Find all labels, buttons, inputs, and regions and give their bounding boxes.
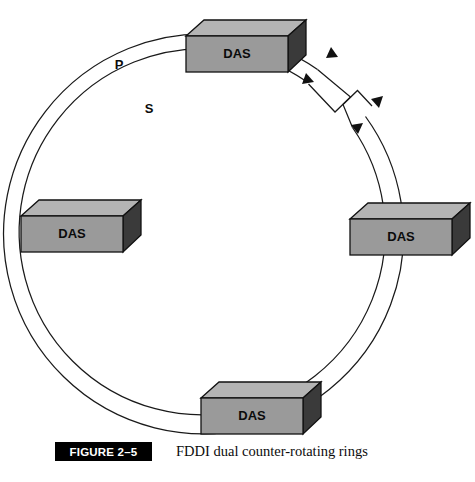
primary-ring-arrow-1 [326, 47, 338, 58]
das-node-right-face [350, 203, 470, 219]
das-node-bottom-label: DAS [238, 408, 266, 423]
das-node-bottom[interactable]: DAS [201, 382, 321, 434]
das-node-top[interactable]: DAS [186, 20, 306, 72]
das-node-bottom-face [201, 382, 321, 398]
figure-caption-text: FDDI dual counter-rotating rings [176, 443, 368, 460]
primary-ring-arrow-2 [302, 73, 314, 84]
secondary-ring-arrow-1 [371, 96, 383, 108]
das-node-right[interactable]: DAS [350, 203, 470, 255]
figure-container: P S DAS DAS DAS DAS [0, 0, 475, 482]
das-node-right-label: DAS [387, 229, 415, 244]
das-node-left[interactable]: DAS [21, 200, 141, 252]
das-node-left-label: DAS [58, 226, 86, 241]
primary-ring-label: P [115, 57, 124, 72]
secondary-ring-label: S [145, 101, 154, 116]
primary-ring-hairpin [309, 70, 351, 113]
secondary-ring-hairpin [343, 91, 372, 128]
das-node-left-face [21, 200, 141, 216]
figure-number-tag: FIGURE 2–5 [55, 442, 152, 461]
das-node-top-face [186, 20, 306, 36]
fddi-ring-diagram: P S DAS DAS DAS DAS [0, 0, 475, 482]
das-node-top-label: DAS [223, 46, 251, 61]
figure-caption-bar: FIGURE 2–5 FDDI dual counter-rotating ri… [55, 442, 368, 461]
